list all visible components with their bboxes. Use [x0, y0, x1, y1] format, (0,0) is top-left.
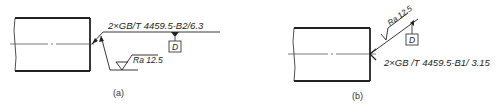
- roughness-label-b: Ra 12.5: [386, 4, 414, 28]
- caption-a: (a): [113, 88, 124, 98]
- figure-a: Ra 12.5 2×GB/T 4459.5-B2/6.3 D (a): [10, 18, 220, 98]
- datum-label-b: D: [409, 35, 415, 45]
- shaft-body-a: [14, 18, 90, 71]
- callout-text-b: 2×GB /T 4459.5-B1/ 3.15: [383, 57, 491, 68]
- datum-triangle-a: [171, 32, 179, 37]
- technical-drawing: Ra 12.5 2×GB/T 4459.5-B2/6.3 D (a) Ra 12…: [0, 0, 503, 107]
- shaft-body-b: [293, 28, 370, 81]
- figure-b: Ra 12.5 D 2×GB /T 4459.5-B1/ 3.15 (b): [288, 4, 491, 101]
- datum-label-a: D: [172, 42, 178, 52]
- callout-text-a: 2×GB/T 4459.5-B2/6.3: [107, 20, 204, 31]
- leader-line-a: [92, 32, 220, 44]
- roughness-label-a: Ra 12.5: [133, 55, 163, 65]
- caption-b: (b): [352, 91, 363, 101]
- arrow-head-roughness-a: [99, 36, 104, 42]
